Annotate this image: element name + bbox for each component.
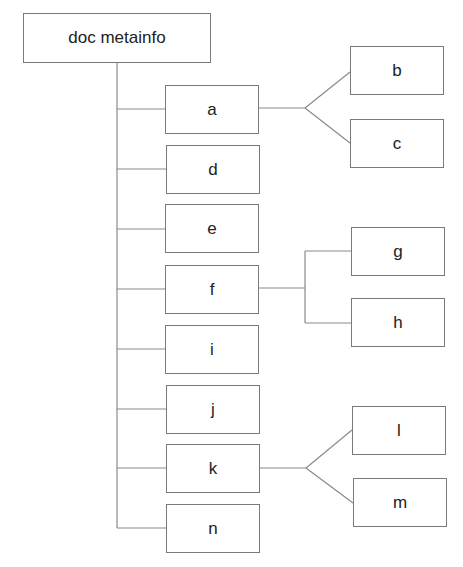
node-label: f: [210, 280, 215, 300]
leaf-g: g: [351, 227, 445, 276]
root-node: doc metainfo: [23, 13, 211, 63]
node-label: n: [208, 519, 217, 539]
node-k: k: [166, 444, 260, 493]
leaf-b: b: [350, 46, 444, 95]
node-d: d: [166, 145, 260, 194]
leaf-label: l: [397, 421, 401, 441]
node-label: j: [211, 400, 215, 420]
node-f: f: [165, 265, 259, 314]
node-e: e: [165, 204, 259, 253]
node-label: a: [207, 100, 216, 120]
connector-a-c: [305, 108, 350, 143]
leaf-c: c: [350, 119, 444, 168]
leaf-label: h: [393, 313, 402, 333]
connector-k-l: [306, 430, 352, 468]
node-label: i: [210, 340, 214, 360]
node-label: k: [209, 459, 218, 479]
leaf-l: l: [352, 406, 446, 455]
root-label: doc metainfo: [68, 28, 165, 48]
node-n: n: [166, 504, 260, 553]
leaf-label: b: [392, 61, 401, 81]
leaf-label: m: [393, 493, 407, 513]
node-i: i: [165, 325, 259, 374]
leaf-label: g: [393, 242, 402, 262]
node-a: a: [165, 85, 259, 134]
connector-a-b: [305, 72, 350, 108]
leaf-h: h: [351, 298, 445, 347]
connector-k-m: [306, 468, 353, 503]
node-label: e: [207, 219, 216, 239]
leaf-m: m: [353, 478, 447, 527]
leaf-label: c: [393, 134, 402, 154]
node-label: d: [208, 160, 217, 180]
node-j: j: [166, 385, 260, 434]
